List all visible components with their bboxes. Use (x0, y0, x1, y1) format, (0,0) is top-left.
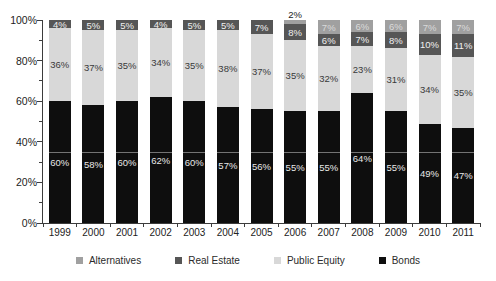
bar-segment-public-equity: 35% (284, 40, 306, 111)
bar-segment-label: 35% (118, 61, 137, 70)
x-axis-label: 2007 (312, 227, 346, 238)
bar-segment-real-estate: 7% (251, 20, 273, 34)
legend-item-alternatives: Alternatives (76, 255, 141, 266)
bar-segment-label: 5% (87, 21, 101, 30)
x-axis-label: 2002 (144, 227, 178, 238)
bar-segment-real-estate: 5% (217, 20, 239, 30)
legend-swatch-bonds (379, 257, 386, 264)
y-axis-minor-tick (39, 80, 43, 81)
legend-label: Real Estate (188, 255, 240, 266)
bar-segment-bonds: 60% (116, 101, 138, 223)
bar-2000: 58%37%5% (82, 20, 104, 223)
x-axis-label: 2010 (413, 227, 447, 238)
bar-segment-bonds: 62% (150, 97, 172, 223)
y-axis-label: 20% (0, 176, 37, 188)
x-axis-label: 2008 (345, 227, 379, 238)
bar-segment-bonds: 64% (351, 93, 373, 223)
x-axis-label: 2011 (446, 227, 480, 238)
bar-segment-label: 6% (355, 22, 369, 31)
bar-segment-label: 4% (154, 20, 168, 29)
bar-2001: 60%35%5% (116, 20, 138, 223)
bar-segment-alternatives: 6% (351, 20, 373, 32)
bar-segment-label: 10% (420, 40, 439, 49)
bar-segment-label: 49% (420, 169, 439, 178)
y-axis-label: 40% (0, 136, 37, 148)
bar-segment-label: 57% (218, 161, 237, 170)
bar-2004: 57%38%5% (217, 20, 239, 223)
bar-2009: 55%31%8%6% (385, 20, 407, 223)
x-axis-label: 2009 (379, 227, 413, 238)
bar-segment-public-equity: 35% (452, 57, 474, 128)
overlay-line (43, 152, 480, 153)
chart-container: 0%20%40%60%80%100% 199920002001200220032… (0, 0, 496, 281)
bar-2008: 64%23%7%6% (351, 20, 373, 223)
bar-segment-bonds: 47% (452, 128, 474, 223)
bar-segment-real-estate: 5% (116, 20, 138, 30)
legend-label: Bonds (392, 255, 420, 266)
x-axis-line (42, 223, 480, 224)
bar-2006: 55%35%8%2% (284, 20, 306, 223)
bar-segment-label: 5% (120, 21, 134, 30)
bar-segment-label: 7% (423, 23, 437, 32)
bar-segment-label: 5% (187, 21, 201, 30)
bar-segment-bonds: 55% (385, 111, 407, 223)
y-axis-major-tick (37, 60, 43, 61)
bar-2011: 47%35%11%7% (452, 20, 474, 223)
bar-segment-label: 55% (319, 163, 338, 172)
bar-segment-outside-label: 2% (288, 9, 302, 20)
bar-2010: 49%34%10%7% (419, 20, 441, 223)
y-axis-label: 0% (0, 217, 37, 229)
bar-segment-bonds: 55% (284, 111, 306, 223)
x-axis-label: 2001 (110, 227, 144, 238)
bar-2007: 55%32%6%7% (318, 20, 340, 223)
legend-swatch-alternatives (76, 257, 83, 264)
bar-segment-bonds: 56% (251, 109, 273, 223)
x-axis-label: 2000 (76, 227, 110, 238)
bar-segment-real-estate: 4% (150, 20, 172, 28)
bar-segment-public-equity: 34% (150, 28, 172, 97)
y-axis-major-tick (37, 101, 43, 102)
bar-2003: 60%35%5% (183, 20, 205, 223)
bar-segment-bonds: 57% (217, 107, 239, 223)
bar-segment-label: 6% (322, 36, 336, 45)
legend-item-real-estate: Real Estate (175, 255, 240, 266)
bar-segment-bonds: 58% (82, 105, 104, 223)
bar-segment-alternatives (284, 20, 306, 24)
bar-segment-label: 58% (84, 160, 103, 169)
bar-segment-public-equity: 34% (419, 55, 441, 124)
bar-segment-real-estate: 7% (351, 32, 373, 46)
bar-segment-label: 11% (454, 41, 472, 50)
legend-item-bonds: Bonds (379, 255, 420, 266)
bar-segment-label: 8% (288, 28, 302, 37)
y-axis-minor-tick (39, 121, 43, 122)
legend-item-public-equity: Public Equity (274, 255, 345, 266)
bar-segment-label: 35% (185, 61, 204, 70)
bar-segment-label: 47% (454, 171, 473, 180)
bar-segment-bonds: 49% (419, 124, 441, 223)
y-axis-major-tick (37, 20, 43, 21)
y-axis-major-tick (37, 182, 43, 183)
y-axis-label: 60% (0, 95, 37, 107)
bar-segment-real-estate: 8% (284, 24, 306, 40)
bar-1999: 60%36%4% (49, 20, 71, 223)
bar-segment-bonds: 55% (318, 111, 340, 223)
bar-segment-public-equity: 23% (351, 46, 373, 93)
bar-segment-label: 7% (355, 35, 369, 44)
bar-segment-bonds: 60% (183, 101, 205, 223)
bar-segment-alternatives: 6% (385, 20, 407, 32)
bar-segment-real-estate: 8% (385, 32, 407, 48)
bar-segment-real-estate: 5% (82, 20, 104, 30)
bar-segment-label: 37% (84, 63, 103, 72)
y-axis-label: 100% (0, 14, 37, 26)
x-axis-label: 2006 (278, 227, 312, 238)
bar-segment-public-equity: 38% (217, 30, 239, 107)
bar-segment-label: 64% (353, 154, 372, 163)
legend-swatch-public-equity (274, 257, 281, 264)
bar-segment-public-equity: 35% (183, 30, 205, 101)
y-axis-minor-tick (39, 40, 43, 41)
y-axis-line (42, 20, 43, 224)
bar-segment-label: 36% (50, 60, 69, 69)
legend-label: Public Equity (287, 255, 345, 266)
bar-segment-label: 60% (50, 158, 69, 167)
bar-segment-alternatives: 7% (318, 20, 340, 34)
